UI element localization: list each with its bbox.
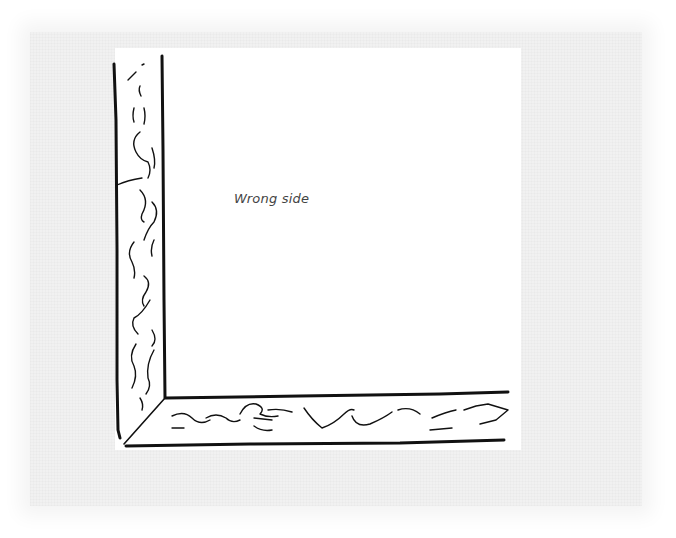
left-outer-edge xyxy=(114,64,120,438)
bottom-outer-edge xyxy=(126,440,504,446)
miter-line xyxy=(124,398,165,444)
bottom-fold-line xyxy=(166,392,508,398)
left-hem-squiggles xyxy=(128,64,157,410)
hem-corner-drawing xyxy=(0,0,676,538)
wrong-side-label: Wrong side xyxy=(234,191,309,206)
bottom-hem-squiggles xyxy=(172,404,508,431)
left-fold-line xyxy=(162,56,165,398)
